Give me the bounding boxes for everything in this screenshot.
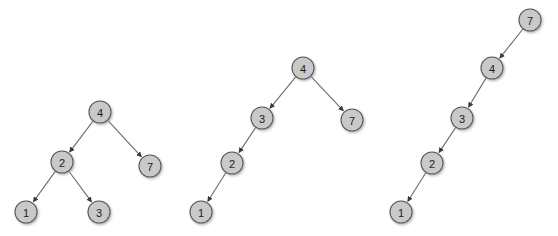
tree-node-label: 1 <box>398 207 404 219</box>
tree-node-label: 3 <box>459 113 465 125</box>
tree-node[interactable]: 2 <box>221 152 243 174</box>
tree-node-label: 7 <box>349 115 355 127</box>
tree-node-label: 7 <box>147 161 153 173</box>
tree-node[interactable]: 3 <box>451 107 473 129</box>
tree-node[interactable]: 2 <box>421 152 443 174</box>
tree-node-label: 2 <box>229 158 235 170</box>
tree-right-nodes: 74321 <box>390 9 541 223</box>
tree-node[interactable]: 1 <box>15 201 37 223</box>
tree-edge <box>311 76 344 111</box>
tree-node[interactable]: 4 <box>481 57 503 79</box>
tree-edge <box>239 128 256 153</box>
tree-node-label: 1 <box>198 207 204 219</box>
tree-node[interactable]: 1 <box>390 201 412 223</box>
tree-edge <box>108 120 142 156</box>
tree-node-label: 3 <box>96 207 102 219</box>
tree-node-label: 2 <box>59 157 65 169</box>
tree-node-label: 2 <box>429 158 435 170</box>
tree-middle-edges <box>208 76 344 201</box>
tree-node[interactable]: 2 <box>51 151 73 173</box>
tree-left-edges <box>33 120 141 202</box>
tree-edge <box>468 78 486 107</box>
tree-middle-nodes: 43721 <box>190 57 363 223</box>
tree-node[interactable]: 1 <box>190 201 212 223</box>
tree-node[interactable]: 4 <box>292 57 314 79</box>
tree-edge <box>439 128 456 153</box>
tree-node-label: 4 <box>300 63 306 75</box>
tree-node-label: 4 <box>97 107 103 119</box>
tree-edge <box>270 77 296 108</box>
tree-node[interactable]: 7 <box>139 155 161 177</box>
tree-edge <box>408 173 426 202</box>
tree-node-label: 3 <box>259 113 265 125</box>
tree-node[interactable]: 3 <box>88 201 110 223</box>
tree-edge <box>70 121 93 152</box>
tree-left-nodes: 42713 <box>15 101 161 223</box>
tree-node-label: 7 <box>527 15 533 27</box>
tree-edge <box>208 173 226 202</box>
tree-node-label: 1 <box>23 207 29 219</box>
tree-node[interactable]: 4 <box>89 101 111 123</box>
tree-node[interactable]: 7 <box>341 109 363 131</box>
tree-node[interactable]: 3 <box>251 107 273 129</box>
tree-node[interactable]: 7 <box>519 9 541 31</box>
tree-diagram-canvas: 427134372174321 <box>0 0 558 236</box>
tree-edge <box>500 29 523 58</box>
tree-edge <box>69 171 92 202</box>
binary-tree-figure: 427134372174321 <box>0 0 558 236</box>
tree-edge <box>33 171 55 202</box>
tree-node-label: 4 <box>489 63 495 75</box>
nodes-layer: 427134372174321 <box>15 9 541 223</box>
